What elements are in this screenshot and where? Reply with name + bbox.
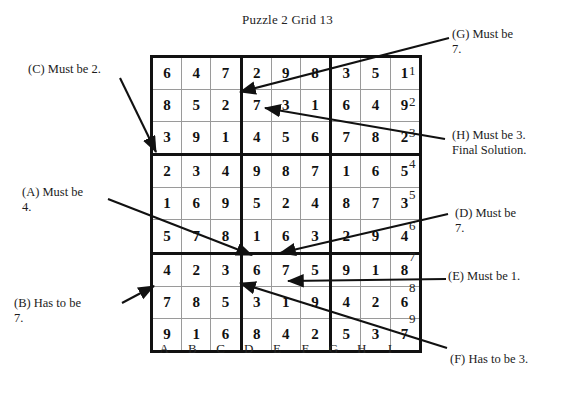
- sudoku-cell-B3[interactable]: 9: [182, 122, 211, 155]
- sudoku-cell-D6[interactable]: 1: [241, 220, 271, 253]
- sudoku-cell-B6[interactable]: 7: [182, 220, 211, 253]
- column-label-D: D: [235, 341, 263, 361]
- sudoku-cell-C6[interactable]: 8: [211, 220, 241, 253]
- sudoku-cell-C1[interactable]: 7: [211, 57, 241, 90]
- row-label-5: 5: [409, 179, 429, 210]
- annotation-E: (E) Must be 1.: [448, 269, 570, 284]
- column-label-I: I: [376, 341, 404, 361]
- sudoku-cell-D7[interactable]: 6: [241, 253, 271, 286]
- row-label-1: 1: [409, 55, 429, 86]
- sudoku-cell-G4[interactable]: 1: [331, 155, 361, 188]
- sudoku-body: 6472983518527316493914567822349871651695…: [152, 57, 421, 352]
- sudoku-row: 578163294: [152, 220, 421, 253]
- sudoku-cell-D1[interactable]: 2: [241, 57, 271, 90]
- sudoku-cell-G5[interactable]: 8: [331, 188, 361, 220]
- sudoku-row: 234987165: [152, 155, 421, 188]
- sudoku-cell-D2[interactable]: 7: [241, 90, 271, 122]
- sudoku-cell-E6[interactable]: 6: [271, 220, 300, 253]
- sudoku-cell-A7[interactable]: 4: [152, 253, 182, 286]
- annotation-H: (H) Must be 3. Final Solution.: [452, 128, 574, 158]
- sudoku-cell-H1[interactable]: 5: [361, 57, 390, 90]
- sudoku-cell-G1[interactable]: 3: [331, 57, 361, 90]
- sudoku-cell-H5[interactable]: 7: [361, 188, 390, 220]
- column-label-row: ABCDEFGHI: [150, 341, 404, 361]
- annotation-C: (C) Must be 2.: [28, 62, 153, 77]
- sudoku-cell-D8[interactable]: 3: [241, 286, 271, 318]
- sudoku-cell-G6[interactable]: 2: [331, 220, 361, 253]
- sudoku-row: 785319426: [152, 286, 421, 318]
- sudoku-cell-E5[interactable]: 2: [271, 188, 300, 220]
- sudoku-cell-C5[interactable]: 9: [211, 188, 241, 220]
- sudoku-cell-H7[interactable]: 1: [361, 253, 390, 286]
- row-label-8: 8: [409, 273, 429, 304]
- sudoku-table[interactable]: 6472983518527316493914567822349871651695…: [150, 55, 422, 353]
- sudoku-cell-G7[interactable]: 9: [331, 253, 361, 286]
- sudoku-grid[interactable]: 6472983518527316493914567822349871651695…: [150, 55, 404, 335]
- sudoku-row: 391456782: [152, 122, 421, 155]
- row-label-6: 6: [409, 211, 429, 242]
- sudoku-cell-B2[interactable]: 5: [182, 90, 211, 122]
- sudoku-cell-F1[interactable]: 8: [300, 57, 330, 90]
- sudoku-row: 423675918: [152, 253, 421, 286]
- sudoku-cell-H3[interactable]: 8: [361, 122, 390, 155]
- row-label-7: 7: [409, 242, 429, 273]
- annotation-F: (F) Has to be 3.: [450, 352, 575, 367]
- sudoku-cell-E2[interactable]: 3: [271, 90, 300, 122]
- sudoku-cell-B1[interactable]: 4: [182, 57, 211, 90]
- row-label-3: 3: [409, 117, 429, 148]
- sudoku-cell-A1[interactable]: 6: [152, 57, 182, 90]
- sudoku-cell-E1[interactable]: 9: [271, 57, 300, 90]
- sudoku-cell-F2[interactable]: 1: [300, 90, 330, 122]
- sudoku-cell-F3[interactable]: 6: [300, 122, 330, 155]
- sudoku-cell-C4[interactable]: 4: [211, 155, 241, 188]
- sudoku-cell-C8[interactable]: 5: [211, 286, 241, 318]
- column-label-A: A: [150, 341, 178, 361]
- sudoku-cell-D5[interactable]: 5: [241, 188, 271, 220]
- page-title: Puzzle 2 Grid 13: [0, 12, 575, 28]
- sudoku-cell-A6[interactable]: 5: [152, 220, 182, 253]
- sudoku-cell-B5[interactable]: 6: [182, 188, 211, 220]
- sudoku-cell-E3[interactable]: 5: [271, 122, 300, 155]
- column-label-C: C: [206, 341, 234, 361]
- sudoku-cell-B8[interactable]: 8: [182, 286, 211, 318]
- sudoku-cell-H6[interactable]: 9: [361, 220, 390, 253]
- sudoku-cell-A3[interactable]: 3: [152, 122, 182, 155]
- sudoku-cell-E8[interactable]: 1: [271, 286, 300, 318]
- sudoku-cell-E4[interactable]: 8: [271, 155, 300, 188]
- row-label-2: 2: [409, 86, 429, 117]
- sudoku-cell-F8[interactable]: 9: [300, 286, 330, 318]
- row-label-9: 9: [409, 304, 429, 335]
- sudoku-cell-D3[interactable]: 4: [241, 122, 271, 155]
- sudoku-cell-F6[interactable]: 3: [300, 220, 330, 253]
- sudoku-cell-G8[interactable]: 4: [331, 286, 361, 318]
- sudoku-cell-H8[interactable]: 2: [361, 286, 390, 318]
- row-label-4: 4: [409, 148, 429, 179]
- sudoku-cell-C2[interactable]: 2: [211, 90, 241, 122]
- sudoku-row: 852731649: [152, 90, 421, 122]
- sudoku-cell-F4[interactable]: 7: [300, 155, 330, 188]
- column-label-G: G: [319, 341, 347, 361]
- sudoku-cell-C3[interactable]: 1: [211, 122, 241, 155]
- annotation-B: (B) Has to be 7.: [14, 296, 134, 326]
- sudoku-cell-A4[interactable]: 2: [152, 155, 182, 188]
- column-label-H: H: [348, 341, 376, 361]
- sudoku-cell-H4[interactable]: 6: [361, 155, 390, 188]
- column-label-F: F: [291, 341, 319, 361]
- sudoku-cell-C7[interactable]: 3: [211, 253, 241, 286]
- column-label-B: B: [178, 341, 206, 361]
- sudoku-cell-F7[interactable]: 5: [300, 253, 330, 286]
- sudoku-cell-G2[interactable]: 6: [331, 90, 361, 122]
- sudoku-cell-A2[interactable]: 8: [152, 90, 182, 122]
- row-label-column: 123456789: [409, 55, 429, 335]
- annotation-A: (A) Must be 4.: [22, 185, 132, 215]
- sudoku-cell-B7[interactable]: 2: [182, 253, 211, 286]
- sudoku-cell-F5[interactable]: 4: [300, 188, 330, 220]
- column-label-E: E: [263, 341, 291, 361]
- sudoku-cell-G3[interactable]: 7: [331, 122, 361, 155]
- sudoku-cell-E7[interactable]: 7: [271, 253, 300, 286]
- sudoku-cell-D4[interactable]: 9: [241, 155, 271, 188]
- sudoku-cell-B4[interactable]: 3: [182, 155, 211, 188]
- sudoku-cell-A5[interactable]: 1: [152, 188, 182, 220]
- sudoku-cell-A8[interactable]: 7: [152, 286, 182, 318]
- sudoku-cell-H2[interactable]: 4: [361, 90, 390, 122]
